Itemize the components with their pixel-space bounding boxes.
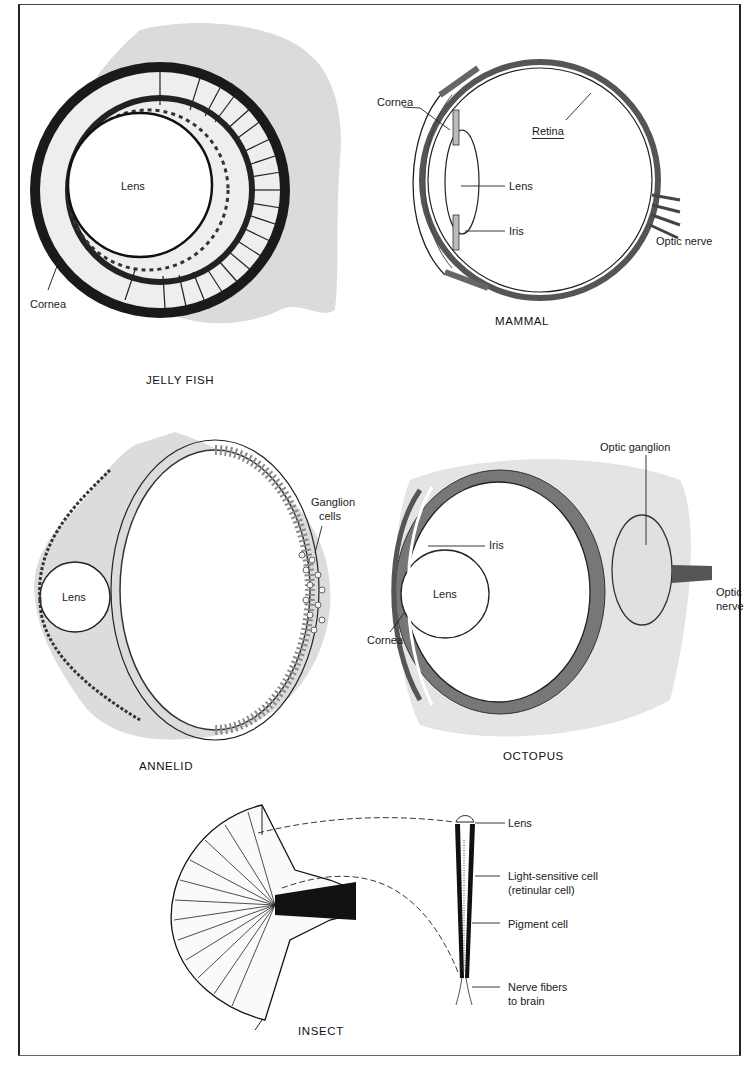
annelid-title: ANNELID — [139, 760, 193, 772]
octopus-cornea-label: Cornea — [367, 634, 403, 647]
mammal-cornea-label: Cornea — [377, 96, 413, 109]
insect-to-brain-label: to brain — [508, 995, 545, 1008]
insect-title: INSECT — [298, 1025, 344, 1037]
mammal-retina-label: Retina — [532, 125, 564, 139]
annelid-lens-label: Lens — [62, 591, 86, 604]
mammal-title: MAMMAL — [495, 315, 549, 327]
octopus-nerve-label: nerve — [716, 600, 744, 613]
octopus-lens-label: Lens — [433, 588, 457, 601]
annelid-eye-drawing — [34, 432, 330, 740]
insect-lens-label: Lens — [508, 817, 532, 830]
insect-light-sensitive-label: Light-sensitive cell — [508, 870, 598, 883]
jellyfish-title: JELLY FISH — [146, 374, 214, 386]
insect-pigment-cell-label: Pigment cell — [508, 918, 568, 931]
insect-retinular-label: (retinular cell) — [508, 884, 575, 897]
mammal-iris-label: Iris — [509, 225, 524, 238]
insect-nerve-fibers-label: Nerve fibers — [508, 981, 567, 994]
insect-eye-drawing — [171, 805, 505, 1030]
mammal-lens-label: Lens — [509, 180, 533, 193]
octopus-iris-label: Iris — [489, 539, 504, 552]
octopus-optic-ganglion-label: Optic ganglion — [600, 441, 670, 454]
annelid-ganglion-label: Ganglion — [311, 496, 355, 509]
jellyfish-eye-drawing — [30, 23, 341, 323]
eye-illustrations — [0, 0, 749, 1089]
annelid-cells-label: cells — [319, 510, 341, 523]
octopus-title: OCTOPUS — [503, 750, 564, 762]
octopus-optic-label: Optic — [716, 586, 742, 599]
mammal-optic-nerve-label: Optic nerve — [656, 235, 712, 248]
mammal-eye-drawing — [403, 62, 680, 298]
jellyfish-cornea-label: Cornea — [30, 298, 66, 311]
jellyfish-lens-label: Lens — [121, 180, 145, 193]
